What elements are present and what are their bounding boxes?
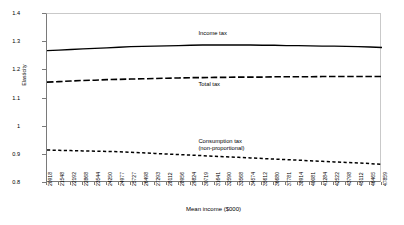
- x-axis-tick-label: 26498: [144, 172, 149, 186]
- y-axis-tick-label: 0.8: [0, 179, 20, 185]
- x-axis-tick-label: 43798: [347, 172, 352, 186]
- x-axis-tick-label: 23544: [96, 172, 101, 186]
- x-axis-tick-label: 38914: [299, 172, 304, 186]
- y-axis-title: Elasticity: [21, 45, 27, 105]
- x-axis-tick-label: 29824: [192, 172, 197, 186]
- x-axis-title: Mean income ($000): [46, 206, 381, 212]
- series-annotation-label: (non-proportional): [198, 145, 244, 152]
- x-axis-tick-label: 33568: [239, 172, 244, 186]
- y-axis-tick-label: 1.4: [0, 10, 20, 16]
- series-line-consumption-tax: [47, 150, 382, 164]
- y-axis-tick-label: 1.2: [0, 66, 20, 72]
- x-axis-tick-label: 28112: [168, 172, 173, 186]
- x-axis-tick-label: 28956: [180, 172, 185, 186]
- x-axis-tick-label: 21548: [60, 172, 65, 186]
- x-axis-tick-label: 46465: [371, 172, 376, 186]
- x-axis-tick-label: 35612: [263, 172, 268, 186]
- x-axis-tick-label: 47859: [383, 172, 388, 186]
- series-lines: [47, 14, 382, 183]
- x-axis-tick-label: 20918: [48, 172, 53, 186]
- plot-area: [46, 13, 381, 182]
- x-axis-tick-label: 30719: [204, 172, 209, 186]
- x-axis-tick-label: 27293: [156, 172, 161, 186]
- y-axis-tick-label: 0.9: [0, 151, 20, 157]
- x-axis-tick-label: 41284: [323, 172, 328, 186]
- x-axis-tick-label: 24250: [108, 172, 113, 186]
- y-axis-tick-label: 1.3: [0, 38, 20, 44]
- x-axis-tick-label: 40081: [311, 172, 316, 186]
- x-axis-tick-label: 37781: [287, 172, 292, 186]
- x-axis-tick-label: 22192: [72, 172, 77, 186]
- x-axis-tick-label: 25727: [132, 172, 137, 186]
- series-line-income-tax: [47, 45, 382, 51]
- series-annotation-label: Consumption tax: [198, 138, 242, 145]
- x-axis-tick-label: 42522: [335, 172, 340, 186]
- x-axis-tick-label: 45112: [359, 172, 364, 186]
- x-axis-tick-label: 31641: [216, 172, 221, 186]
- y-axis-tick-label: 1.1: [0, 95, 20, 101]
- elasticity-line-chart: Elasticity 1.41.31.21.110.90.8 209182154…: [0, 0, 404, 225]
- x-axis-tick-label: 24977: [120, 172, 125, 186]
- y-axis-tick-label: 1: [0, 123, 20, 129]
- series-annotation-label: Income tax: [198, 30, 226, 37]
- x-axis-tick-label: 36680: [275, 172, 280, 186]
- x-axis-tick-label: 32590: [227, 172, 232, 186]
- x-axis-tick-label: 22868: [84, 172, 89, 186]
- x-axis-tick-label: 34574: [251, 172, 256, 186]
- series-annotation-label: Total tax: [198, 81, 220, 88]
